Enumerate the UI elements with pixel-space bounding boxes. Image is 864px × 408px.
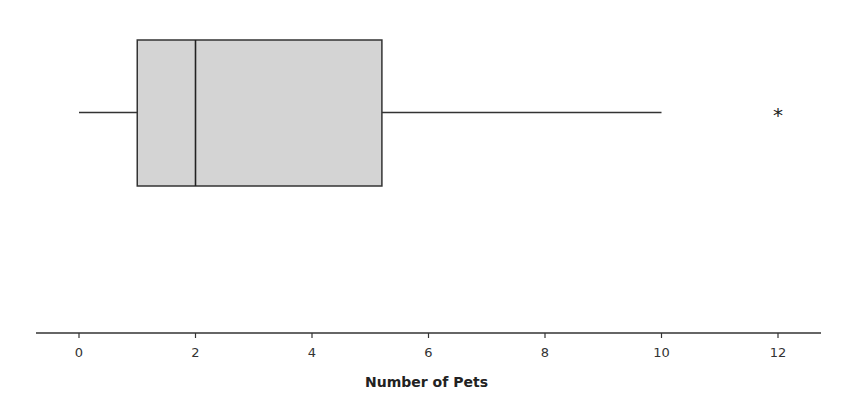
x-axis-title: Number of Pets bbox=[365, 374, 488, 390]
x-tick-label: 12 bbox=[770, 345, 787, 360]
x-tick-label: 4 bbox=[308, 345, 316, 360]
x-tick-label: 8 bbox=[541, 345, 549, 360]
x-tick-label: 10 bbox=[653, 345, 670, 360]
outlier-point: * bbox=[773, 103, 783, 127]
interquartile-box bbox=[137, 40, 382, 186]
x-axis-ticks: 024681012 bbox=[75, 333, 786, 360]
box-plot-chart: * 024681012 Number of Pets bbox=[0, 0, 864, 408]
x-tick-label: 6 bbox=[424, 345, 432, 360]
x-tick-label: 0 bbox=[75, 345, 83, 360]
x-tick-label: 2 bbox=[191, 345, 199, 360]
